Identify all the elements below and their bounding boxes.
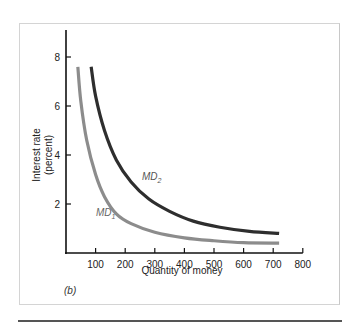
x-tick-label: 800 bbox=[294, 259, 311, 270]
y-tick-label: 6 bbox=[54, 101, 60, 112]
y-axis-label-line1: Interest rate bbox=[31, 128, 42, 182]
y-tick-label: 2 bbox=[54, 199, 60, 210]
x-tick-label: 700 bbox=[265, 259, 282, 270]
panel-label: (b) bbox=[64, 285, 76, 296]
money-demand-chart: 1002003004005006007008002468 MD1MD2 Quan… bbox=[0, 0, 347, 328]
curve-md2 bbox=[91, 67, 279, 234]
x-tick-label: 600 bbox=[235, 259, 252, 270]
label-md2: MD2 bbox=[142, 171, 162, 184]
y-tick-label: 4 bbox=[54, 150, 60, 161]
y-axis-label-line2: (percent) bbox=[43, 135, 54, 175]
y-tick-label: 8 bbox=[54, 52, 60, 63]
curves: MD1MD2 bbox=[78, 67, 279, 243]
x-tick-label: 200 bbox=[117, 259, 134, 270]
x-tick-label: 100 bbox=[87, 259, 104, 270]
x-axis-label: Quantity of money bbox=[141, 265, 222, 276]
